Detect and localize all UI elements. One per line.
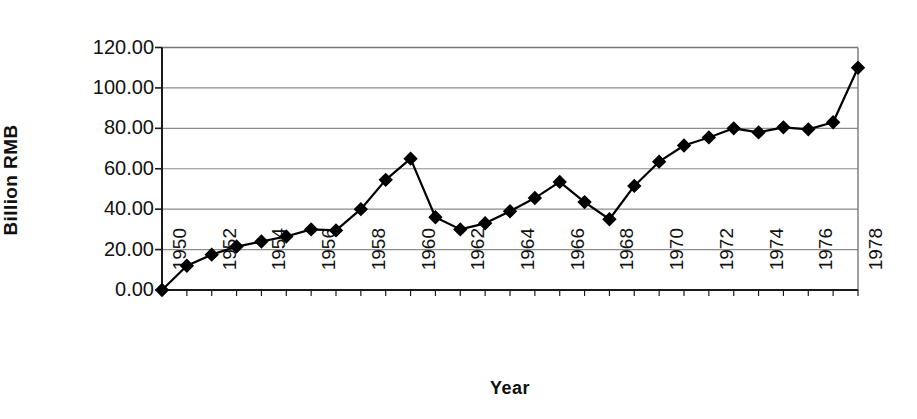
y-axis-ticks [155, 48, 162, 291]
gridlines [162, 48, 858, 291]
data-point-marker [255, 235, 267, 247]
data-point-marker [454, 223, 466, 235]
data-point-marker [479, 217, 491, 229]
data-point-marker [678, 139, 690, 151]
data-point-marker [280, 230, 292, 242]
plot-area [0, 0, 917, 419]
data-point-marker [802, 123, 814, 135]
chart-figure: Billion RMB 120.00100.0080.0060.0040.002… [0, 0, 917, 419]
data-point-marker [827, 116, 839, 128]
x-axis-title: Year [162, 378, 858, 399]
data-point-marker [728, 122, 740, 134]
data-point-marker [504, 205, 516, 217]
data-point-marker [305, 223, 317, 235]
data-point-marker [529, 192, 541, 204]
data-point-marker [852, 62, 864, 74]
data-point-marker [429, 211, 441, 223]
data-line-series [162, 68, 858, 290]
data-point-markers [156, 62, 864, 297]
data-point-marker [230, 240, 242, 252]
data-point-marker [703, 131, 715, 143]
data-point-marker [777, 121, 789, 133]
series-polyline [162, 68, 858, 290]
data-point-marker [206, 248, 218, 260]
